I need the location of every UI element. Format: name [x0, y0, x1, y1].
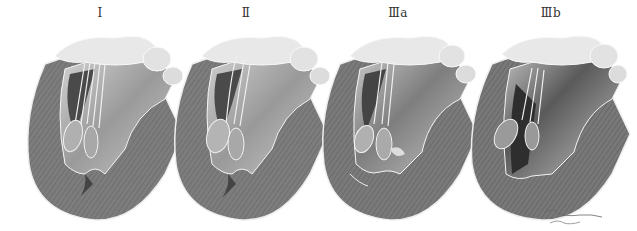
heart-cutaway-icon	[310, 24, 480, 231]
panel-label-ii: Ⅱ	[242, 6, 251, 20]
panel-label-iiib: Ⅲb	[541, 6, 561, 20]
artist-signature-icon	[540, 205, 610, 229]
heart-illustration-ii	[160, 24, 330, 231]
heart-cutaway-icon	[160, 24, 330, 231]
heart-illustration-iiib	[462, 24, 632, 231]
heart-cutaway-icon	[462, 24, 632, 231]
heart-illustration-iiia	[310, 24, 480, 231]
panel-label-iiia: Ⅲa	[388, 6, 408, 20]
panel-label-i: Ⅰ	[97, 6, 102, 20]
